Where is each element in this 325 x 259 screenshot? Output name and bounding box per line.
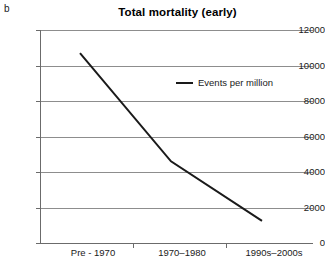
legend-label: Events per million <box>198 77 273 88</box>
series-layer <box>0 0 325 259</box>
line-marker-icon <box>176 82 193 84</box>
legend: Events per million <box>176 77 273 88</box>
figure: b Total mortality (early) 12000 10000 80… <box>0 0 325 259</box>
